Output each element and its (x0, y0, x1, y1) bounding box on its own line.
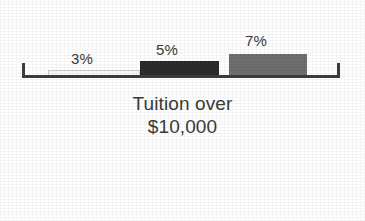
axis-tick-right (337, 63, 340, 78)
caption-line-2: $10,000 (0, 115, 365, 138)
chart-caption: Tuition over $10,000 (0, 92, 365, 138)
caption-line-1: Tuition over (0, 92, 365, 115)
bar-label-7-percent: 7% (245, 32, 267, 49)
axis-bracket (22, 62, 340, 78)
axis-tick-left (22, 63, 25, 78)
axis-baseline (22, 75, 340, 78)
bar-label-5-percent: 5% (156, 41, 178, 58)
bar-chart-figure: 3% 5% 7% Tuition over $10,000 (0, 0, 365, 221)
plot-area: 3% 5% 7% (0, 0, 365, 90)
